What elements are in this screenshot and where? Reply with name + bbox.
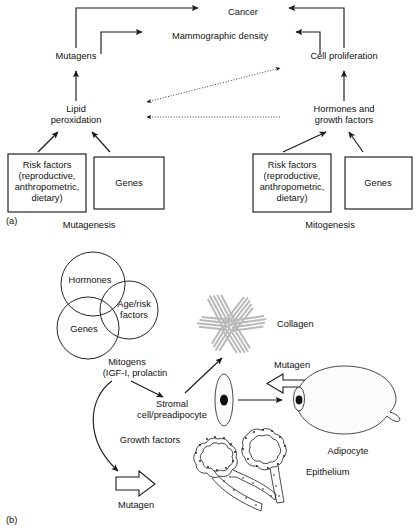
arrow-mutagens-to-mammographic-density (101, 32, 142, 54)
caption-mutagenesis: Mutagenesis (63, 220, 116, 230)
node-lipid-peroxidation-line1: Lipid (66, 104, 86, 114)
box-risk-factors-left-line3: anthropometric, (15, 182, 80, 192)
box-risk-factors-right-line1: Risk factors (268, 160, 317, 170)
node-hormones-line2: growth factors (315, 115, 374, 125)
label-mitogens-line2: (IGF-I, prolactin (103, 368, 168, 378)
panel-b-id: (b) (6, 515, 17, 525)
adipocyte-shape (294, 366, 400, 434)
label-mutagen-upper: Mutagen (274, 360, 310, 370)
caption-mitogenesis: Mitogenesis (305, 220, 355, 230)
box-genes-left-label: Genes (115, 178, 143, 188)
label-adipocyte: Adipocyte (328, 446, 369, 456)
arrow-lipid-peroxidation-cell-proliferation-dotted (147, 68, 280, 102)
arrow-genes-right-to-hormones (349, 132, 363, 152)
label-epithelium: Epithelium (306, 467, 350, 477)
node-lipid-peroxidation-line2: peroxidation (51, 115, 102, 125)
arrow-mitogens-to-stromal (131, 381, 163, 397)
box-risk-factors-right-line4: dietary) (276, 193, 307, 203)
figure-root: Cancer Mammographic density Mutagens Cel… (0, 0, 420, 530)
box-genes-right-label: Genes (364, 178, 392, 188)
arrow-cell-proliferation-to-cancer (289, 8, 344, 48)
node-hormones-line1: Hormones and (314, 104, 375, 114)
box-risk-factors-left-line2: (reproductive, (19, 171, 76, 181)
arrow-genes-left-to-lipid (92, 132, 110, 152)
label-collagen: Collagen (277, 319, 314, 329)
node-mutagens: Mutagens (56, 51, 97, 61)
arrow-risk-factors-right-to-hormones (283, 132, 326, 152)
collagen-fibrils (197, 291, 268, 358)
panel-a-id: (a) (6, 216, 17, 226)
box-risk-factors-right-line2: (reproductive, (264, 171, 321, 181)
circle-age-risk-label-line1: Age/risk (117, 299, 151, 309)
stromal-cell-shape (215, 374, 233, 426)
box-risk-factors-right-line3: anthropometric, (260, 182, 325, 192)
arrow-mitogens-to-epithelium-curve (93, 381, 118, 471)
label-mutagen-lower: Mutagen (118, 500, 154, 510)
arrow-risk-factors-left-to-lipid (38, 132, 58, 152)
open-arrow-mutagen-lower (116, 471, 155, 496)
box-risk-factors-left-line1: Risk factors (23, 160, 72, 170)
node-mammographic-density: Mammographic density (172, 31, 268, 41)
arrow-mutagens-to-cancer (76, 8, 198, 48)
circle-age-risk-label-line2: factors (120, 310, 148, 320)
box-risk-factors-left-line4: dietary) (31, 193, 62, 203)
circle-genes-label: Genes (70, 324, 98, 334)
epithelium-shape (194, 429, 287, 511)
circle-hormones-label: Hormones (69, 275, 112, 285)
node-cancer: Cancer (228, 7, 258, 17)
label-growth-factors: Growth factors (120, 435, 181, 445)
label-stromal-line2: cell/preadipocyte (137, 410, 207, 420)
label-mitogens-line1: Mitogens (108, 357, 146, 367)
label-stromal-line1: Stromal (156, 399, 188, 409)
